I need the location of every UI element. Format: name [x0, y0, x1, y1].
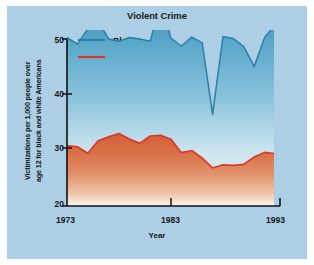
chart-canvas	[0, 0, 314, 265]
chart-figure: Violent Crime Victimizations per 1,000 p…	[0, 0, 314, 265]
series-areas	[67, 3, 274, 206]
